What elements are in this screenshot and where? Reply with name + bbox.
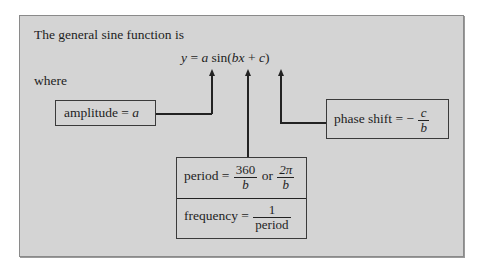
period-den1: b [234, 178, 258, 192]
period-num1: 360 [234, 163, 258, 178]
period-connector [247, 76, 249, 158]
period-fraction-2: 2πb [277, 163, 294, 191]
amplitude-connector [156, 113, 212, 115]
period-fraction-1: 360b [234, 163, 258, 191]
amplitude-label: amplitude = [64, 105, 132, 120]
phase-shift-label: phase shift = − [334, 111, 417, 126]
eq-sin: sin( [208, 50, 232, 65]
frequency-label: frequency = [184, 208, 252, 223]
amplitude-text: amplitude = a [64, 105, 139, 121]
phase-shift-box: phase shift = − cb [326, 99, 449, 139]
sine-equation: y = a sin(bx + c) [181, 50, 269, 66]
period-or: or [258, 168, 276, 183]
eq-equals: = [187, 50, 201, 65]
intro-text: The general sine function is [34, 27, 184, 43]
amplitude-var: a [132, 105, 139, 120]
amplitude-arrow-icon [209, 69, 215, 76]
phase-shift-text: phase shift = − cb [334, 106, 430, 134]
amplitude-connector-v [211, 76, 213, 114]
eq-close: ) [265, 50, 270, 65]
eq-plus: + [245, 50, 259, 65]
period-frequency-box: period = 360b or 2πb frequency = 1period [176, 157, 307, 239]
frequency-num: 1 [253, 203, 290, 218]
phase-den: b [418, 121, 429, 135]
frequency-fraction: 1period [253, 203, 290, 231]
period-num2: 2π [277, 163, 294, 178]
phase-connector-v [280, 76, 282, 123]
period-text: period = 360b or 2πb [184, 163, 295, 191]
amplitude-box: amplitude = a [55, 100, 156, 126]
phase-connector-h [280, 122, 326, 124]
frequency-den: period [253, 218, 290, 232]
period-label: period = [184, 168, 233, 183]
eq-bx: bx [232, 50, 245, 65]
period-den2: b [277, 178, 294, 192]
frequency-text: frequency = 1period [184, 203, 292, 231]
phase-num: c [418, 106, 429, 121]
period-arrow-icon [245, 69, 251, 76]
period-divider [177, 198, 306, 199]
where-text: where [34, 73, 67, 89]
phase-shift-fraction: cb [418, 106, 429, 134]
phase-arrow-icon [278, 69, 284, 76]
